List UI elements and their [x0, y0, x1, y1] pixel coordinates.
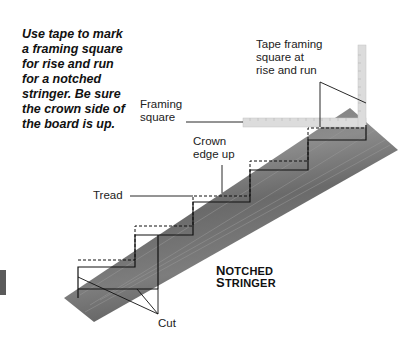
framing-square-blade	[243, 118, 366, 127]
crown-edge-label-line2: edge up	[193, 148, 235, 161]
framing-square-tongue	[358, 45, 366, 127]
tape-square-label-line3: rise and run	[256, 64, 322, 77]
instructions-text: Use tape to mark a framing square for ri…	[22, 27, 132, 132]
tape-square-label-line1: Tape framing	[256, 38, 322, 51]
framing-square-label-line1: Framing	[140, 98, 182, 111]
crown-edge-label: Crown edge up	[193, 135, 235, 161]
tread-label: Tread	[93, 189, 123, 202]
crown-edge-label-line1: Crown	[193, 135, 235, 148]
title-line2-cap: S	[216, 275, 225, 290]
diagram-title: NOTCHED STRINGER	[216, 265, 276, 289]
tape-square-label: Tape framing square at rise and run	[256, 38, 322, 77]
tape-square-label-line2: square at	[256, 51, 322, 64]
cut-label: Cut	[158, 317, 176, 330]
framing-square-label-line2: square	[140, 111, 182, 124]
title-line1-rest: OTCHED	[226, 265, 274, 277]
title-line2-rest: TRINGER	[225, 277, 276, 289]
framing-square-label: Framing square	[140, 98, 182, 124]
